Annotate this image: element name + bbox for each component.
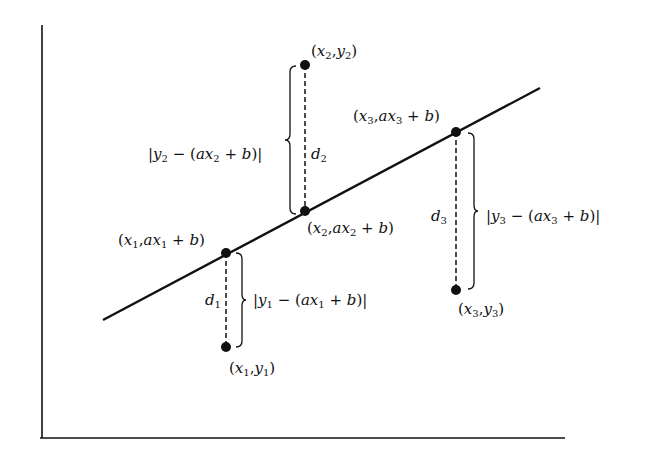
label-line-point-2: (x2,ax2 + b) xyxy=(307,219,394,238)
data-point-2 xyxy=(300,60,310,70)
distance-label-1: d1 xyxy=(205,291,221,310)
line-point-1 xyxy=(221,248,231,258)
distance-label-2: d2 xyxy=(311,145,327,164)
data-point-3 xyxy=(451,285,461,295)
residual-label-3: |y3 − (ax3 + b)| xyxy=(486,207,600,226)
residual-label-2: |y2 − (ax2 + b)| xyxy=(148,145,262,164)
regression-residuals-diagram: (x2,y2) |y2 − (ax2 + b)| d2 (x2,ax2 + b)… xyxy=(0,0,650,456)
label-data-point-1: (x1,y1) xyxy=(229,359,275,378)
label-data-point-3: (x3,y3) xyxy=(458,300,504,319)
line-point-3 xyxy=(451,127,461,137)
label-data-point-2: (x2,y2) xyxy=(311,42,357,61)
brace-2 xyxy=(285,66,296,214)
line-point-2 xyxy=(300,206,310,216)
label-line-point-1: (x1,ax1 + b) xyxy=(118,231,205,250)
data-point-1 xyxy=(221,342,231,352)
label-line-point-3: (x3,ax3 + b) xyxy=(353,107,440,126)
brace-3 xyxy=(468,133,478,289)
brace-1 xyxy=(236,253,246,347)
residual-label-1: |y1 − (ax1 + b)| xyxy=(253,291,367,310)
distance-label-3: d3 xyxy=(431,207,447,226)
